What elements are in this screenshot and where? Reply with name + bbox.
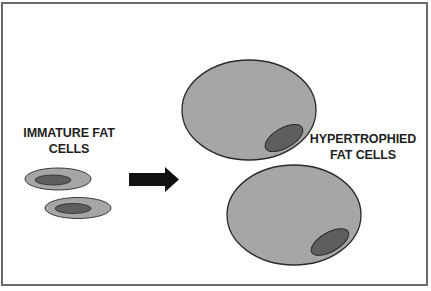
hypertrophied-fat-cell-1 bbox=[182, 60, 316, 160]
nucleus-icon bbox=[35, 175, 71, 185]
hypertrophied-label-line2: FAT CELLS bbox=[304, 147, 422, 163]
immature-label-line1: IMMATURE FAT bbox=[14, 125, 124, 141]
nucleus-icon bbox=[55, 204, 91, 214]
arrow-right-icon bbox=[129, 167, 179, 192]
immature-fat-cell-2 bbox=[45, 198, 111, 219]
hypertrophied-label-line1: HYPERTROPHIED bbox=[304, 131, 422, 147]
immature-fat-cells-label: IMMATURE FAT CELLS bbox=[14, 125, 124, 157]
hypertrophied-fat-cells-label: HYPERTROPHIED FAT CELLS bbox=[304, 131, 422, 163]
immature-fat-cell-1 bbox=[25, 168, 91, 190]
immature-label-line2: CELLS bbox=[14, 141, 124, 157]
hypertrophied-fat-cell-2 bbox=[227, 165, 361, 265]
